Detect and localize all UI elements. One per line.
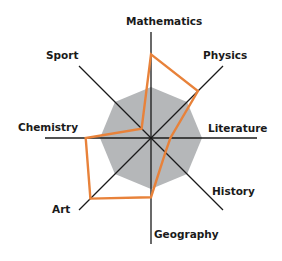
radar-chart: Mathematics Physics Literature History G… [0,0,282,261]
axis-label-history: History [212,185,255,197]
axis-label-literature: Literature [208,122,268,134]
axis-label-sport: Sport [46,49,79,61]
axis-label-art: Art [52,203,70,215]
axis-label-mathematics: Mathematics [126,15,202,27]
axis-label-physics: Physics [203,49,247,61]
axis-label-geography: Geography [154,228,219,240]
axis-label-chemistry: Chemistry [18,121,78,133]
